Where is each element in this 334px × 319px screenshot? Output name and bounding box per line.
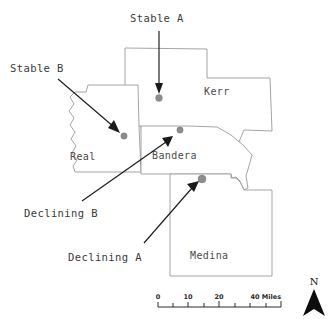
site-marker-stable-a[interactable]	[156, 95, 163, 102]
scale-bar-label-10: 10	[183, 293, 193, 301]
scale-bar: 0 10 20 40 Miles	[156, 293, 281, 307]
county-label-medina: Medina	[190, 250, 229, 261]
site-marker-declining-b[interactable]	[177, 127, 183, 133]
annotation-label-stable-a: Stable A	[130, 12, 184, 24]
site-marker-stable-b[interactable]	[121, 133, 127, 139]
county-label-bandera: Bandera	[152, 150, 197, 161]
county-label-real: Real	[70, 151, 96, 162]
county-label-kerr: Kerr	[204, 86, 230, 97]
north-arrow-label: N	[310, 276, 319, 287]
map-figure: Kerr Real Bandera Medina	[0, 0, 334, 319]
scale-bar-label-20: 20	[214, 293, 224, 301]
scale-bar-label-end: 40 Miles	[250, 293, 281, 301]
scale-bar-label-0: 0	[156, 293, 161, 301]
site-marker-declining-a[interactable]	[198, 175, 206, 183]
map-canvas: Kerr Real Bandera Medina	[0, 0, 334, 319]
north-arrow-group: N	[303, 276, 325, 316]
north-arrow-icon	[303, 289, 325, 316]
county-boundaries	[69, 48, 272, 276]
annotation-label-declining-b: Declining B	[24, 207, 98, 219]
annotation-label-stable-b: Stable B	[10, 62, 64, 74]
annotation-label-declining-a: Declining A	[68, 251, 142, 263]
